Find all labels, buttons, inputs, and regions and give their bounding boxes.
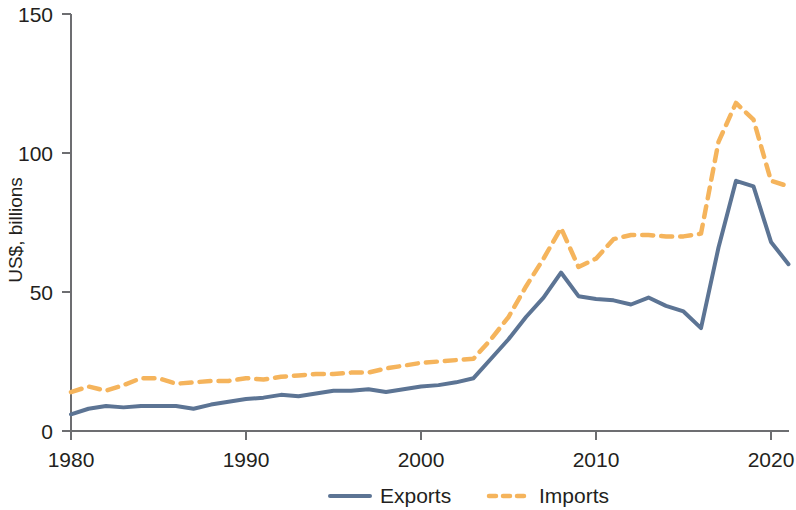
legend-label-exports: Exports [380, 484, 451, 507]
legend-label-imports: Imports [539, 484, 609, 507]
y-axis-title-group: US$, billions [5, 177, 26, 283]
y-tick-label: 50 [30, 281, 53, 304]
y-tick-label: 100 [18, 142, 53, 165]
x-tick-label: 2000 [398, 448, 445, 471]
plot-area: 050100150 19801990200020102020 [18, 3, 794, 471]
y-axis-title: US$, billions [5, 177, 26, 283]
series-line-imports [71, 103, 789, 392]
chart-legend: ExportsImports [330, 484, 609, 507]
series-line-exports [71, 181, 789, 415]
series-lines [71, 103, 789, 414]
x-tick-label: 1990 [223, 448, 270, 471]
x-tick-label: 2010 [573, 448, 620, 471]
line-chart: 050100150 19801990200020102020 US$, bill… [0, 0, 796, 510]
y-tick-label: 0 [41, 420, 53, 443]
x-axis-ticks: 19801990200020102020 [48, 431, 795, 471]
chart-canvas: 050100150 19801990200020102020 US$, bill… [0, 0, 796, 510]
x-tick-label: 1980 [48, 448, 95, 471]
x-tick-label: 2020 [748, 448, 795, 471]
y-tick-label: 150 [18, 3, 53, 26]
